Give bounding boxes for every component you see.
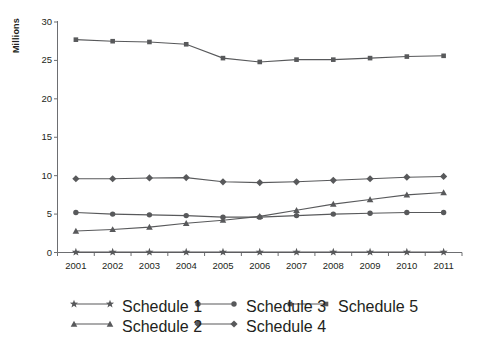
diamond-marker — [403, 174, 410, 181]
series-1 — [72, 248, 448, 256]
star-marker — [145, 248, 153, 256]
diamond-marker — [109, 175, 116, 182]
square-marker — [74, 37, 79, 42]
diamond-marker — [72, 175, 79, 182]
diamond-marker — [146, 174, 153, 181]
square-marker — [221, 56, 226, 61]
square-marker — [184, 42, 189, 47]
circle-marker — [331, 211, 336, 216]
diamond-marker — [256, 179, 263, 186]
chart-figure: Millions 051015202530 200120022003200420… — [0, 0, 477, 342]
legend-label-3: Schedule 3 — [246, 299, 326, 315]
circle-marker — [73, 210, 78, 215]
circle-marker — [147, 212, 152, 217]
star-marker — [72, 248, 80, 256]
legend-label-5: Schedule 5 — [338, 299, 418, 315]
circle-marker — [441, 210, 446, 215]
diamond-marker — [293, 178, 300, 185]
circle-marker — [110, 211, 115, 216]
square-marker — [331, 57, 336, 62]
diamond-marker — [440, 173, 447, 180]
square-marker — [294, 57, 299, 62]
star-marker — [256, 248, 264, 256]
circle-marker — [294, 213, 299, 218]
square-marker — [405, 54, 410, 59]
diamond-marker — [219, 178, 226, 185]
chart-legend: Schedule 1Schedule 2Schedule 3Schedule 4… — [0, 288, 477, 342]
circle-marker — [404, 210, 409, 215]
legend-symbols — [0, 288, 477, 342]
series-3 — [73, 210, 446, 220]
diamond-marker — [230, 320, 237, 327]
diamond-marker — [366, 175, 373, 182]
square-marker — [147, 40, 152, 45]
legend-label-2: Schedule 2 — [122, 319, 202, 335]
diamond-marker — [183, 174, 190, 181]
circle-marker — [367, 211, 372, 216]
square-marker — [441, 54, 446, 59]
star-marker — [182, 248, 190, 256]
legend-label-1: Schedule 1 — [122, 299, 202, 315]
star-marker — [440, 248, 448, 256]
circle-marker — [257, 214, 262, 219]
star-marker — [403, 248, 411, 256]
series-5 — [74, 37, 446, 64]
series-line — [76, 193, 444, 231]
series-line — [76, 40, 444, 62]
series-2 — [73, 189, 447, 233]
square-marker — [110, 39, 115, 44]
star-marker — [292, 248, 300, 256]
circle-marker — [220, 214, 225, 219]
star-marker — [106, 300, 114, 308]
circle-marker — [231, 301, 236, 306]
star-marker — [70, 300, 78, 308]
star-marker — [219, 248, 227, 256]
circle-marker — [184, 213, 189, 218]
star-marker — [109, 248, 117, 256]
square-marker — [368, 56, 373, 61]
diamond-marker — [330, 177, 337, 184]
star-marker — [329, 248, 337, 256]
legend-label-4: Schedule 4 — [246, 319, 326, 335]
square-marker — [257, 60, 262, 65]
star-marker — [366, 248, 374, 256]
series-4 — [72, 173, 447, 186]
